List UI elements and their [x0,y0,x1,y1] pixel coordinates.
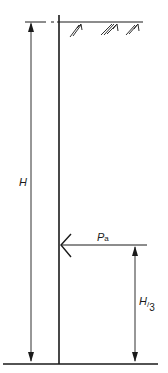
force-label: Pa [97,232,109,243]
force-height-label: H/3 [139,296,155,307]
height-dimension-arrow [28,22,34,362]
force-height-denominator: 3 [149,302,155,313]
force-height-dimension-arrow [132,246,138,362]
height-label: H [19,177,27,188]
force-height-numerator: H [139,295,147,307]
force-subscript: a [104,234,108,243]
soil-hatch-marks [70,24,139,37]
